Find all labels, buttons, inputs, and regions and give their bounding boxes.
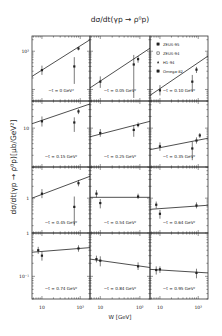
data-point xyxy=(41,69,43,71)
x-tick-label: 10 xyxy=(97,305,103,310)
data-point xyxy=(77,47,79,49)
data-point xyxy=(77,182,79,184)
panel: −t = 0.64 GeV² xyxy=(150,202,208,225)
data-point xyxy=(41,120,43,122)
fit-line xyxy=(32,104,90,124)
panel: −t = 0.45 GeV² xyxy=(32,176,90,225)
y-tick-label: 10⁻¹ xyxy=(19,274,29,279)
legend-label: H1-94 xyxy=(163,60,175,65)
panel-t-label: −t = 0.45 GeV² xyxy=(45,220,78,225)
data-point xyxy=(195,272,197,274)
panel: −t = 0.10 GeV² xyxy=(150,56,208,95)
panel-t-label: −t = 0.95 GeV² xyxy=(163,286,196,291)
cross-section-figure: dσ/dt(γp → ρ⁰p) dσ/dt(γp → ρ⁰p)[μb/GeV²]… xyxy=(0,0,222,336)
legend-marker-icon xyxy=(157,61,159,64)
data-point xyxy=(137,58,139,60)
fit-line xyxy=(32,248,90,253)
panel-t-label: −t = 0.84 GeV² xyxy=(104,286,137,291)
fit-line xyxy=(32,40,90,77)
data-point xyxy=(159,268,161,270)
panel: −t = 0.84 GeV² xyxy=(90,256,150,291)
data-point xyxy=(99,260,101,262)
y-axis-label-group: dσ/dt(γp → ρ⁰p)[μb/GeV²] xyxy=(9,120,18,215)
data-point xyxy=(195,139,197,141)
x-tick-label: 10² xyxy=(76,305,84,310)
data-point xyxy=(73,206,75,208)
panel-t-label: −t = 0.05 GeV² xyxy=(104,88,137,93)
data-point xyxy=(155,269,157,271)
data-point xyxy=(37,249,39,251)
data-point xyxy=(77,247,79,249)
data-point xyxy=(41,193,43,195)
data-point xyxy=(99,81,101,83)
legend-label: Omega-82 xyxy=(163,69,184,74)
data-point xyxy=(133,129,135,131)
data-point xyxy=(137,265,139,267)
fit-line xyxy=(90,48,150,88)
data-point xyxy=(199,134,201,136)
panel-t-label: −t = 0.25 GeV² xyxy=(104,154,137,159)
legend: ZEUS-95ZEUS-94H1-94Omega-82 xyxy=(157,42,184,74)
data-point xyxy=(195,204,197,206)
x-tick-label: 10² xyxy=(194,305,202,310)
data-point xyxy=(95,193,97,195)
panel-t-label: −t = 0.15 GeV² xyxy=(45,154,78,159)
panel-t-label: −t = 0.74 GeV² xyxy=(45,286,78,291)
panel-t-label: −t = 0.54 GeV² xyxy=(104,220,137,225)
panel-grid: 10²101110⁻¹1010²1010²1010²−t = 0 GeV²−t … xyxy=(19,36,208,310)
panel: −t = 0.54 GeV² xyxy=(90,190,150,225)
data-point xyxy=(159,89,161,91)
data-point xyxy=(137,195,139,197)
panel: −t = 0 GeV² xyxy=(32,40,90,93)
y-tick-label: 1 xyxy=(26,196,29,201)
panel-t-label: −t = 0.35 GeV² xyxy=(163,154,196,159)
data-point xyxy=(137,124,139,126)
data-point xyxy=(73,121,75,123)
data-point xyxy=(159,213,161,215)
data-point xyxy=(99,132,101,134)
fit-line xyxy=(150,138,208,149)
fit-line xyxy=(150,269,208,273)
data-point xyxy=(73,65,75,67)
y-axis-label: dσ/dt(γp → ρ⁰p)[μb/GeV²] xyxy=(9,120,18,215)
data-point xyxy=(191,81,193,83)
x-axis-label: W [GeV] xyxy=(109,314,132,320)
fit-line xyxy=(90,121,150,136)
data-point xyxy=(77,110,79,112)
panel: −t = 0.35 GeV² xyxy=(150,133,208,160)
panel: −t = 0.74 GeV² xyxy=(32,245,90,291)
panel: −t = 0.25 GeV² xyxy=(90,121,150,159)
y-tick-label: 1 xyxy=(26,231,29,236)
y-tick-label: 10 xyxy=(23,126,29,131)
x-tick-label: 10 xyxy=(39,305,45,310)
data-point xyxy=(133,63,135,65)
data-point xyxy=(41,255,43,257)
data-point xyxy=(155,204,157,206)
legend-marker-icon xyxy=(157,43,159,45)
x-tick-label: 10 xyxy=(157,305,163,310)
panel: −t = 0.95 GeV² xyxy=(150,266,208,291)
data-point xyxy=(159,145,161,147)
chart-title: dσ/dt(γp → ρ⁰p) xyxy=(91,15,149,24)
legend-marker-icon xyxy=(157,52,159,54)
panel-t-label: −t = 0.10 GeV² xyxy=(163,88,196,93)
panel-t-label: −t = 0.64 GeV² xyxy=(163,220,196,225)
data-point xyxy=(191,147,193,149)
fit-line xyxy=(150,205,208,209)
legend-label: ZEUS-95 xyxy=(163,42,180,47)
legend-label: ZEUS-94 xyxy=(163,51,180,56)
panel-t-label: −t = 0 GeV² xyxy=(48,88,74,93)
data-point xyxy=(99,202,101,204)
data-point xyxy=(95,258,97,260)
fit-line xyxy=(90,259,150,267)
legend-marker-icon xyxy=(157,70,159,72)
panel: −t = 0.15 GeV² xyxy=(32,104,90,159)
fit-line xyxy=(32,176,90,198)
x-tick-label: 10² xyxy=(136,305,144,310)
data-point xyxy=(195,69,197,71)
panel: −t = 0.05 GeV² xyxy=(90,48,150,98)
y-tick-label: 10² xyxy=(21,49,29,54)
